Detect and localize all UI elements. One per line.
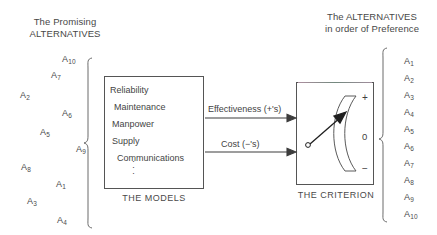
ranked-alternative-a8: A8 <box>404 175 414 185</box>
right-heading: The ALTERNATIVES in order of Preference <box>312 11 432 35</box>
criterion-box-caption: THE CRITERION <box>288 190 384 200</box>
models-box-caption: THE MODELS <box>104 193 204 203</box>
alternative-a5: A5 <box>40 127 50 137</box>
alternative-a4: A4 <box>57 215 67 225</box>
model-item-reliability: Reliability <box>110 85 149 95</box>
model-item-supply: Supply <box>112 136 140 146</box>
cost-arrow-label: Cost (−'s) <box>221 139 259 149</box>
ranked-alternative-a3: A3 <box>404 90 414 100</box>
model-item-maintenance: Maintenance <box>114 102 166 112</box>
alternative-a6: A6 <box>62 108 72 118</box>
ranked-alternative-a6: A6 <box>404 141 414 151</box>
alternative-a1: A1 <box>56 179 66 189</box>
ranked-alternative-a5: A5 <box>404 124 414 134</box>
alternative-a3: A3 <box>27 196 37 206</box>
model-item-manpower: Manpower <box>112 119 154 129</box>
gauge-plus-mark: + <box>362 92 368 103</box>
models-ellipsis: ··· <box>132 158 135 176</box>
ranked-alternative-a7: A7 <box>404 158 414 168</box>
gauge-zero-mark: 0 <box>362 131 367 142</box>
gauge-minus-mark: − <box>362 163 368 174</box>
ranked-alternative-a10: A10 <box>404 209 417 219</box>
model-item-communications: Communications <box>117 153 184 163</box>
effectiveness-arrow-head <box>287 114 296 121</box>
alternative-a2: A2 <box>20 90 30 100</box>
alternative-a9: A9 <box>76 144 86 154</box>
alternative-a7: A7 <box>51 70 61 80</box>
ranked-alternative-a2: A2 <box>404 73 414 83</box>
effectiveness-arrow-label: Effectiveness (+'s) <box>208 104 281 114</box>
ranked-alternative-a1: A1 <box>404 56 414 66</box>
diagram-canvas: The Promising ALTERNATIVES The ALTERNATI… <box>0 0 437 235</box>
ranked-alternative-a4: A4 <box>404 107 414 117</box>
alternative-a10: A10 <box>62 54 75 64</box>
alternative-a8: A8 <box>21 162 31 172</box>
left-heading: The Promising ALTERNATIVES <box>10 16 120 40</box>
left-brace <box>84 58 92 228</box>
cost-arrow-head <box>287 148 296 155</box>
ranked-alternative-a9: A9 <box>404 192 414 202</box>
